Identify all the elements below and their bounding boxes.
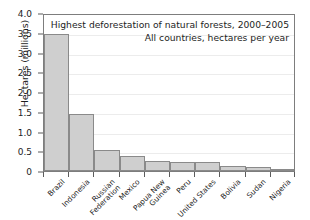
bar [195, 162, 220, 171]
x-axis-tick-mark [294, 172, 295, 177]
y-axis-tick-labels: 00.51.01.52.02.53.03.54.0 [0, 0, 40, 220]
bar [145, 161, 170, 171]
bar [120, 156, 145, 171]
y-axis-tick-label: 4.0 [18, 9, 32, 19]
x-axis-tick-mark [245, 172, 246, 177]
x-axis-tick-mark [270, 172, 271, 177]
y-axis-tick-label: 0.5 [18, 147, 32, 157]
bar [44, 34, 69, 171]
x-axis-tick-mark [43, 172, 44, 177]
x-axis-tick-mark [194, 172, 195, 177]
y-axis-tick-label: 0 [26, 167, 32, 177]
bar [94, 150, 119, 171]
y-axis-tick-label: 1.0 [18, 128, 32, 138]
y-axis-tick-label: 1.5 [18, 108, 32, 118]
x-axis-tick-mark [169, 172, 170, 177]
x-axis-tick-mark [144, 172, 145, 177]
bar [170, 162, 195, 171]
y-axis-tick-label: 3.5 [18, 29, 32, 39]
bar [246, 167, 271, 171]
bar [271, 169, 295, 171]
deforestation-bar-chart: Hectares (millions) 00.51.01.52.02.53.03… [0, 0, 310, 220]
bar [69, 114, 94, 171]
x-axis-tick-mark [93, 172, 94, 177]
bars-layer [44, 15, 294, 171]
x-axis-tick-mark [119, 172, 120, 177]
plot-area: Highest deforestation of natural forests… [43, 14, 295, 172]
x-axis-tick-labels: BrazilIndonesiaRussian FederationMexicoP… [43, 178, 295, 220]
x-axis-tick-mark [68, 172, 69, 177]
y-axis-tick-label: 3.0 [18, 49, 32, 59]
y-axis-tick-label: 2.0 [18, 88, 32, 98]
x-axis-tick-mark [219, 172, 220, 177]
bar [220, 166, 245, 171]
y-axis-tick-label: 2.5 [18, 68, 32, 78]
